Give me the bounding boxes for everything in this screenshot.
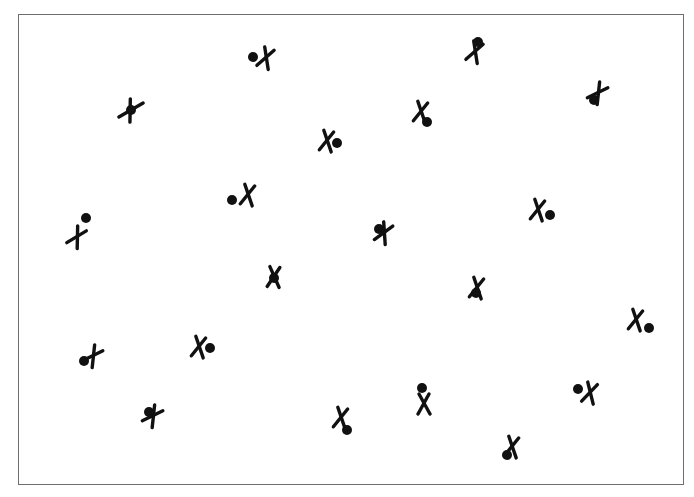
x-dot-marker bbox=[227, 184, 256, 206]
x-dot-marker bbox=[417, 383, 430, 414]
dot-icon bbox=[374, 224, 384, 234]
x-mark-icon bbox=[191, 336, 206, 358]
dot-icon bbox=[248, 52, 258, 62]
x-dot-marker bbox=[413, 101, 432, 127]
x-dot-marker bbox=[374, 221, 394, 244]
x-dot-marker bbox=[573, 382, 598, 404]
dot-icon bbox=[269, 273, 279, 283]
dot-icon bbox=[342, 425, 352, 435]
dot-icon bbox=[422, 117, 432, 127]
dot-icon bbox=[81, 213, 91, 223]
x-mark-icon bbox=[67, 225, 87, 248]
dot-icon bbox=[545, 210, 555, 220]
dot-icon bbox=[502, 450, 512, 460]
x-dot-marker bbox=[530, 199, 555, 221]
x-mark-icon bbox=[628, 309, 643, 331]
dot-icon bbox=[471, 288, 481, 298]
x-dot-marker bbox=[79, 344, 104, 367]
dot-icon bbox=[417, 383, 427, 393]
dot-icon bbox=[473, 37, 483, 47]
x-dot-marker bbox=[469, 277, 484, 299]
x-dot-marker bbox=[319, 130, 342, 152]
dot-icon bbox=[205, 343, 215, 353]
dot-icon bbox=[227, 195, 237, 205]
x-dot-marker bbox=[114, 94, 148, 125]
dot-icon bbox=[589, 95, 599, 105]
dot-icon bbox=[144, 407, 154, 417]
x-dot-marker bbox=[248, 47, 275, 70]
dot-icon bbox=[644, 323, 654, 333]
x-dot-marker bbox=[267, 267, 281, 288]
x-dot-marker bbox=[142, 404, 163, 427]
x-mark-icon bbox=[418, 394, 430, 414]
x-dot-marker bbox=[502, 436, 520, 460]
x-mark-icon bbox=[582, 382, 599, 404]
x-dot-marker bbox=[466, 37, 484, 63]
x-dot-marker bbox=[191, 336, 215, 358]
x-mark-icon bbox=[530, 199, 545, 221]
dot-icon bbox=[126, 105, 136, 115]
x-mark-icon bbox=[240, 184, 255, 206]
x-mark-icon bbox=[257, 47, 275, 70]
x-dot-marker bbox=[587, 81, 608, 105]
dot-icon bbox=[573, 384, 583, 394]
x-dot-marker bbox=[628, 309, 654, 333]
dot-icon bbox=[332, 138, 342, 148]
x-dot-marker bbox=[333, 407, 352, 435]
x-mark-icon bbox=[319, 130, 334, 152]
x-dot-marker bbox=[67, 213, 91, 249]
x-mark-icon bbox=[142, 404, 163, 427]
dot-icon bbox=[79, 356, 89, 366]
marker-canvas bbox=[0, 0, 694, 497]
